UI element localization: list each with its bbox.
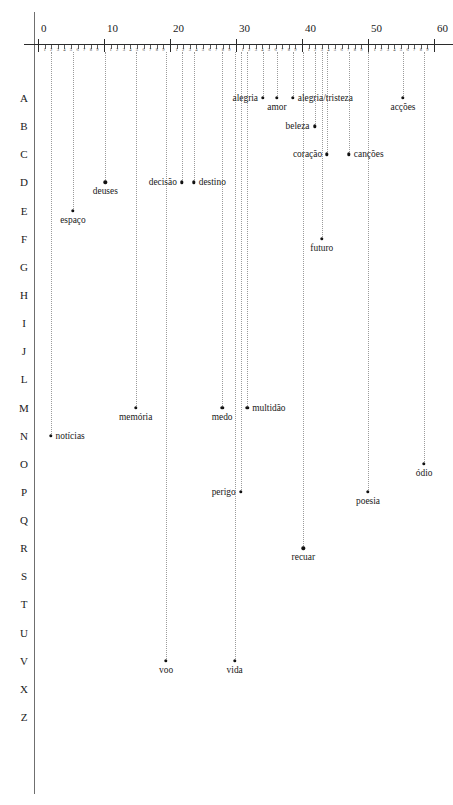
minor-tick-label: 5 [334, 47, 336, 52]
guide-line [105, 52, 106, 182]
row-label-r: R [16, 542, 32, 554]
row-label-a: A [16, 92, 32, 104]
data-point[interactable] [422, 462, 425, 465]
row-label-u: U [16, 627, 32, 639]
minor-tick-label: 5 [202, 47, 204, 52]
data-point-label: poesia [356, 496, 380, 507]
data-point-label: notícias [56, 430, 85, 441]
major-tick-label: 10 [107, 22, 118, 34]
minor-tick-label: 1 [241, 47, 243, 52]
minor-tick-label: 1 [373, 47, 375, 52]
major-tick-label: 0 [41, 22, 47, 34]
data-point[interactable] [233, 659, 236, 662]
data-point[interactable] [134, 406, 137, 409]
minor-tick-label: 6 [76, 47, 78, 52]
minor-tick-label: 4 [129, 47, 131, 52]
minor-tick-label: 7 [215, 47, 217, 52]
minor-tick-label: 3 [255, 47, 257, 52]
row-label-v: V [16, 655, 32, 667]
guide-line [403, 52, 404, 98]
data-point[interactable] [320, 237, 323, 240]
minor-tick-label: 4 [393, 47, 395, 52]
major-tick-label: 20 [173, 22, 184, 34]
data-point-label: alegria [233, 93, 259, 104]
guide-line [136, 52, 137, 408]
data-point-label: destino [199, 177, 226, 188]
minor-tick-label: 3 [57, 47, 59, 52]
data-point[interactable] [313, 124, 316, 127]
data-point-label: acções [390, 102, 415, 113]
minor-tick-label: 1 [43, 47, 45, 52]
data-point[interactable] [104, 181, 107, 184]
major-tick [302, 39, 303, 52]
data-point[interactable] [192, 181, 195, 184]
guide-line [247, 52, 248, 408]
frame-left-rule [34, 12, 35, 794]
minor-tick-label: 9 [426, 47, 428, 52]
minor-tick-label: 1 [307, 47, 309, 52]
minor-tick-label: 6 [340, 47, 342, 52]
row-label-l: L [16, 373, 32, 385]
data-point[interactable] [220, 406, 223, 409]
guide-line [222, 52, 223, 408]
data-point[interactable] [180, 181, 183, 184]
minor-tick-label: 6 [208, 47, 210, 52]
dispersion-plot: 0102030405060123456789123456789123456789… [0, 0, 453, 805]
data-point[interactable] [302, 546, 305, 549]
minor-tick-label: 3 [123, 47, 125, 52]
data-point[interactable] [291, 96, 294, 99]
guide-line [194, 52, 195, 182]
minor-tick-label: 8 [288, 47, 290, 52]
minor-tick-label: 4 [195, 47, 197, 52]
minor-tick-label: 9 [360, 47, 362, 52]
data-point[interactable] [401, 96, 404, 99]
data-point-label: beleza [286, 121, 310, 132]
data-point-label: amor [267, 102, 286, 113]
row-label-x: X [16, 683, 32, 695]
minor-tick-label: 8 [156, 47, 158, 52]
major-tick [38, 39, 39, 52]
data-point[interactable] [366, 490, 369, 493]
data-point[interactable] [49, 434, 52, 437]
data-point-label: medo [212, 412, 233, 423]
row-label-s: S [16, 570, 32, 582]
data-point-label: vida [227, 665, 243, 676]
row-label-h: H [16, 289, 32, 301]
row-label-m: M [16, 402, 32, 414]
major-tick [236, 39, 237, 52]
minor-tick-label: 8 [90, 47, 92, 52]
guide-line [368, 52, 369, 492]
minor-tick-label: 9 [228, 47, 230, 52]
data-point[interactable] [275, 96, 278, 99]
data-point[interactable] [239, 490, 242, 493]
data-point[interactable] [261, 96, 264, 99]
data-point[interactable] [246, 406, 249, 409]
major-tick-label: 30 [239, 22, 250, 34]
row-label-g: G [16, 261, 32, 273]
data-point[interactable] [347, 153, 350, 156]
row-label-b: B [16, 120, 32, 132]
data-point-label: decisão [149, 177, 177, 188]
data-point-label: espaço [60, 215, 86, 226]
data-point[interactable] [325, 153, 328, 156]
data-point-label: ódio [416, 468, 433, 479]
row-label-q: Q [16, 514, 32, 526]
minor-tick-label: 2 [380, 47, 382, 52]
row-label-j: J [16, 345, 32, 357]
guide-line [263, 52, 264, 98]
row-label-o: O [16, 458, 32, 470]
major-tick [104, 39, 105, 52]
row-label-t: T [16, 598, 32, 610]
row-label-p: P [16, 486, 32, 498]
guide-line [166, 52, 167, 661]
minor-tick-label: 9 [96, 47, 98, 52]
major-tick-label: 40 [305, 22, 316, 34]
row-label-n: N [16, 430, 32, 442]
data-point-label: recuar [292, 552, 315, 563]
row-label-z: Z [16, 711, 32, 723]
data-point[interactable] [164, 659, 167, 662]
data-point[interactable] [71, 209, 74, 212]
minor-tick-label: 8 [420, 47, 422, 52]
guide-line [424, 52, 425, 464]
major-tick-label: 60 [437, 22, 448, 34]
